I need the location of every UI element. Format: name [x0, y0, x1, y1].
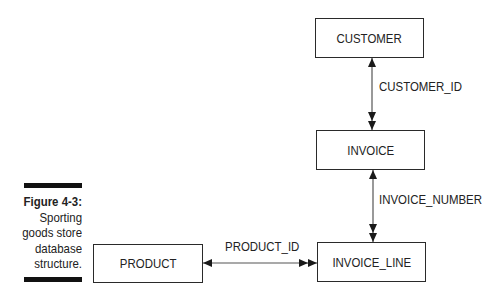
relationship-label-product-id: PRODUCT_ID: [225, 239, 299, 254]
entity-invoice: INVOICE: [316, 130, 425, 170]
relationship-label-customer-id: CUSTOMER_ID: [379, 79, 462, 94]
entity-customer: CUSTOMER: [315, 18, 424, 58]
entity-customer-label: CUSTOMER: [337, 31, 402, 46]
relationship-label-invoice-number: INVOICE_NUMBER: [379, 192, 482, 207]
entity-product: PRODUCT: [93, 244, 203, 283]
entity-invoice-line: INVOICE_LINE: [317, 242, 426, 282]
entity-invoice-line-label: INVOICE_LINE: [332, 255, 411, 270]
entity-product-label: PRODUCT: [120, 256, 177, 271]
entity-invoice-label: INVOICE: [347, 143, 394, 158]
